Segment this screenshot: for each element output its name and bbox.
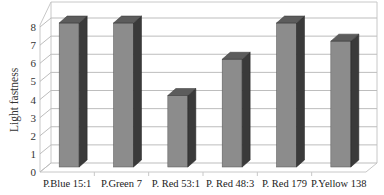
x-category-label: P. Red 48:3 [206, 178, 254, 189]
gridlines [40, 18, 377, 172]
bar-chart: 012345678 P.Blue 15:1P.Green 7P. Red 53:… [0, 0, 384, 195]
x-category-label: P.Blue 15:1 [43, 178, 91, 189]
y-axis-ticks: 012345678 [31, 21, 37, 178]
y-tick-label: 2 [31, 130, 37, 142]
y-tick-label: 1 [31, 148, 37, 160]
x-category-label: P. Red 53:1 [152, 178, 200, 189]
y-tick-label: 5 [31, 75, 37, 87]
chart-walls [40, 2, 377, 172]
bars [59, 16, 359, 167]
y-axis-label: Light fastness [8, 67, 21, 132]
bar [222, 52, 250, 167]
bar [277, 16, 305, 167]
y-tick-label: 0 [31, 166, 37, 178]
bar [114, 16, 142, 167]
x-axis-categories: P.Blue 15:1P.Green 7P. Red 53:1P. Red 48… [43, 172, 367, 189]
bar [59, 16, 87, 167]
y-tick-label: 4 [31, 94, 37, 106]
x-category-label: P. Red 179 [262, 178, 307, 189]
bar [331, 34, 359, 167]
y-tick-label: 3 [31, 112, 37, 124]
y-tick-label: 6 [31, 57, 37, 69]
x-category-label: P.Green 7 [101, 178, 142, 189]
y-tick-label: 8 [31, 21, 37, 33]
bar [168, 89, 196, 168]
x-category-label: P.Yellow 138 [311, 178, 367, 189]
y-tick-label: 7 [31, 39, 37, 51]
